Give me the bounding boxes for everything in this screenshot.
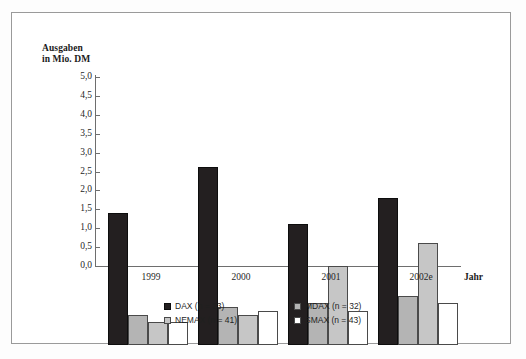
y-axis-tick-mark bbox=[96, 77, 100, 78]
y-axis-tick-label: 2,5 bbox=[80, 166, 92, 176]
scanned-page: Ausgaben in Mio. DM 5,04,54,03,53,02,52,… bbox=[0, 0, 526, 359]
x-axis-tick-label: 2000 bbox=[198, 272, 284, 282]
y-axis-tick-mark bbox=[96, 190, 100, 191]
y-axis-tick-label: 0,5 bbox=[80, 241, 92, 251]
bar-dax-2001 bbox=[288, 224, 308, 345]
y-axis-tick-mark bbox=[96, 153, 100, 154]
y-axis-title: Ausgaben in Mio. DM bbox=[42, 43, 90, 65]
bar-mdax-1999 bbox=[128, 315, 148, 345]
legend-label: NEMAX (n = 41) bbox=[175, 315, 237, 325]
y-axis-tick-mark bbox=[96, 209, 100, 210]
bar-nemax-2002e bbox=[418, 243, 438, 345]
y-axis-tick-mark bbox=[96, 115, 100, 116]
legend-item-mdax[interactable]: MDAX (n = 32) bbox=[294, 301, 424, 311]
legend-label: DAX (n = 23) bbox=[175, 301, 224, 311]
y-axis-tick-mark bbox=[96, 96, 100, 97]
bar-chart: Ausgaben in Mio. DM 5,04,54,03,53,02,52,… bbox=[12, 13, 512, 345]
y-axis-tick: 3,0 bbox=[12, 153, 104, 154]
bar-nemax-1999 bbox=[148, 322, 168, 345]
legend-swatch-smax-icon bbox=[294, 317, 301, 324]
y-axis-tick-label: 3,5 bbox=[80, 128, 92, 138]
y-axis-tick: 3,5 bbox=[12, 134, 104, 135]
legend-swatch-mdax-icon bbox=[294, 303, 301, 310]
y-axis-tick-label: 1,0 bbox=[80, 222, 92, 232]
y-axis-tick-mark bbox=[96, 172, 100, 173]
y-axis-tick-label: 4,5 bbox=[80, 90, 92, 100]
x-axis-tick-label: 1999 bbox=[108, 272, 194, 282]
legend-label: MDAX (n = 32) bbox=[305, 301, 361, 311]
y-axis-tick: 4,5 bbox=[12, 96, 104, 97]
y-axis-tick-mark bbox=[96, 266, 100, 267]
chart-legend: DAX (n = 23)MDAX (n = 32)NEMAX (n = 41)S… bbox=[164, 301, 424, 325]
y-axis-tick-mark bbox=[96, 228, 100, 229]
y-axis-tick: 1,5 bbox=[12, 209, 104, 210]
y-axis-tick: 0,5 bbox=[12, 247, 104, 248]
y-axis-tick-label: 1,5 bbox=[80, 203, 92, 213]
y-axis-tick-mark bbox=[96, 134, 100, 135]
y-axis-tick-label: 4,0 bbox=[80, 109, 92, 119]
y-axis-tick-mark bbox=[96, 247, 100, 248]
x-axis-tick-label: 2002e bbox=[378, 272, 464, 282]
y-axis-tick-label: 3,0 bbox=[80, 147, 92, 157]
legend-item-nemax[interactable]: NEMAX (n = 41) bbox=[164, 315, 294, 325]
y-axis-tick-label: 0,0 bbox=[80, 260, 92, 270]
y-axis-tick: 2,0 bbox=[12, 190, 104, 191]
y-axis-tick: 1,0 bbox=[12, 228, 104, 229]
y-axis-tick-label: 2,0 bbox=[80, 184, 92, 194]
figure-frame: Ausgaben in Mio. DM 5,04,54,03,53,02,52,… bbox=[11, 12, 511, 344]
legend-swatch-dax-icon bbox=[164, 303, 171, 310]
bar-smax-2002e bbox=[438, 303, 458, 345]
legend-item-dax[interactable]: DAX (n = 23) bbox=[164, 301, 294, 311]
y-axis-tick: 2,5 bbox=[12, 172, 104, 173]
legend-label: SMAX (n = 43) bbox=[305, 315, 361, 325]
y-axis-tick: 4,0 bbox=[12, 115, 104, 116]
legend-item-smax[interactable]: SMAX (n = 43) bbox=[294, 315, 424, 325]
bar-smax-1999 bbox=[168, 322, 188, 345]
y-axis-tick: 0,0 bbox=[12, 266, 104, 267]
y-axis-tick-label: 5,0 bbox=[80, 71, 92, 81]
y-axis-tick: 5,0 bbox=[12, 77, 104, 78]
x-axis-title: Jahr bbox=[464, 272, 483, 282]
x-axis-tick-label: 2001 bbox=[288, 272, 374, 282]
page-top-cropped-text bbox=[34, 0, 334, 6]
legend-swatch-nemax-icon bbox=[164, 317, 171, 324]
